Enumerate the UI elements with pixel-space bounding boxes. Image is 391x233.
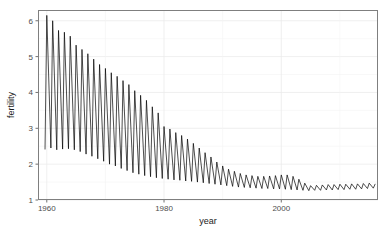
y-tick-label: 5 [29,53,34,62]
y-tick-label: 6 [29,17,34,26]
chart-svg: 123456196019802000yearfertility [0,0,391,233]
y-tick-label: 3 [29,124,34,133]
y-tick-label: 2 [29,160,34,169]
x-tick-label: 1960 [38,204,56,213]
x-tick-label: 1980 [155,204,173,213]
x-tick-label: 2000 [272,204,290,213]
x-axis: 196019802000 [38,200,291,213]
y-tick-label: 4 [29,88,34,97]
y-tick-label: 1 [29,196,34,205]
y-axis: 123456 [29,17,38,205]
fertility-over-time-chart: 123456196019802000yearfertility [0,0,391,233]
x-axis-title: year [199,216,217,226]
y-axis-title: fertility [6,92,16,119]
